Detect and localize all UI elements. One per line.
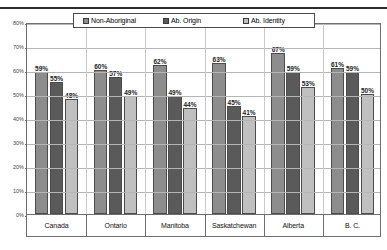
bar-chart: Non-AboriginalAb. OriginAb. Identity 59%… bbox=[0, 0, 387, 250]
bar: 57% bbox=[109, 77, 123, 214]
y-axis-label: 70% bbox=[0, 44, 24, 50]
group-separator bbox=[145, 24, 146, 214]
bar: 48% bbox=[65, 99, 79, 214]
gridline bbox=[27, 96, 380, 97]
y-axis-label: 0% bbox=[0, 212, 24, 218]
group-separator bbox=[323, 24, 324, 214]
category-label-3: Saskatchewan bbox=[205, 215, 264, 236]
category-label-text: Alberta bbox=[282, 222, 303, 230]
bar-value-label: 53% bbox=[302, 80, 315, 87]
category-label-0: Canada bbox=[27, 215, 86, 236]
category-label-text: Canada bbox=[45, 222, 69, 230]
bar: 50% bbox=[361, 94, 375, 214]
page-top-margin bbox=[0, 0, 387, 6]
bar-value-label: 44% bbox=[183, 101, 196, 108]
bar-value-label: 50% bbox=[361, 87, 374, 94]
y-axis-label: 40% bbox=[0, 116, 24, 122]
legend-item-1: Ab. Origin bbox=[154, 17, 234, 25]
bar: 45% bbox=[227, 106, 241, 214]
legend-label: Ab. Identity bbox=[251, 17, 285, 25]
bar: 53% bbox=[301, 87, 315, 214]
legend-swatch-icon bbox=[83, 18, 89, 24]
bar-value-label: 63% bbox=[213, 56, 226, 63]
category-label-1: Ontario bbox=[86, 215, 145, 236]
chart-legend: Non-AboriginalAb. OriginAb. Identity bbox=[73, 13, 315, 28]
y-axis-tick bbox=[25, 48, 27, 49]
bar-value-label: 61% bbox=[331, 61, 344, 68]
y-axis-tick bbox=[25, 168, 27, 169]
legend-swatch-icon bbox=[163, 18, 169, 24]
legend-swatch-icon bbox=[243, 18, 249, 24]
group-separator bbox=[86, 24, 87, 214]
bar: 41% bbox=[242, 116, 256, 214]
y-axis-label: 10% bbox=[0, 188, 24, 194]
bar-value-label: 41% bbox=[243, 109, 256, 116]
category-label-4: Alberta bbox=[264, 215, 323, 236]
category-label-2: Manitoba bbox=[145, 215, 204, 236]
y-axis-tick bbox=[25, 120, 27, 121]
gridline bbox=[27, 144, 380, 145]
y-axis-label: 60% bbox=[0, 68, 24, 74]
category-label-text: B. C. bbox=[345, 222, 360, 230]
y-axis-tick bbox=[25, 192, 27, 193]
plot-area: 59%55%48%60%57%49%62%49%44%63%45%41%67%5… bbox=[26, 23, 381, 215]
gridline bbox=[27, 72, 380, 73]
category-label-text: Manitoba bbox=[161, 222, 189, 230]
legend-label: Non-Aboriginal bbox=[91, 17, 136, 25]
bar-value-label: 62% bbox=[153, 58, 166, 65]
y-axis-label: 30% bbox=[0, 140, 24, 146]
group-separator bbox=[264, 24, 265, 214]
gridline bbox=[27, 192, 380, 193]
y-axis-label: 50% bbox=[0, 92, 24, 98]
y-axis-tick bbox=[25, 144, 27, 145]
bar: 44% bbox=[183, 108, 197, 214]
gridline bbox=[27, 168, 380, 169]
y-axis-label: 80% bbox=[0, 20, 24, 26]
y-axis-tick bbox=[25, 96, 27, 97]
gridline bbox=[27, 120, 380, 121]
bar-value-label: 60% bbox=[94, 63, 107, 70]
bar: 67% bbox=[271, 53, 285, 214]
bar: 55% bbox=[50, 82, 64, 214]
legend-item-0: Non-Aboriginal bbox=[74, 17, 154, 25]
y-axis-label: 20% bbox=[0, 164, 24, 170]
legend-item-2: Ab. Identity bbox=[234, 17, 314, 25]
category-label-5: B. C. bbox=[323, 215, 382, 236]
bar: 49% bbox=[168, 96, 182, 214]
category-label-text: Saskatchewan bbox=[212, 222, 256, 230]
y-axis-tick bbox=[25, 72, 27, 73]
category-label-text: Ontario bbox=[105, 222, 127, 230]
gridline bbox=[27, 48, 380, 49]
bar: 49% bbox=[124, 96, 138, 214]
header-divider-rule bbox=[0, 7, 387, 9]
bar-value-label: 45% bbox=[228, 99, 241, 106]
category-axis: CanadaOntarioManitobaSaskatchewanAlberta… bbox=[26, 215, 381, 237]
legend-label: Ab. Origin bbox=[171, 17, 201, 25]
group-separator bbox=[205, 24, 206, 214]
y-axis-tick bbox=[25, 24, 27, 25]
bar-value-label: 55% bbox=[50, 75, 63, 82]
